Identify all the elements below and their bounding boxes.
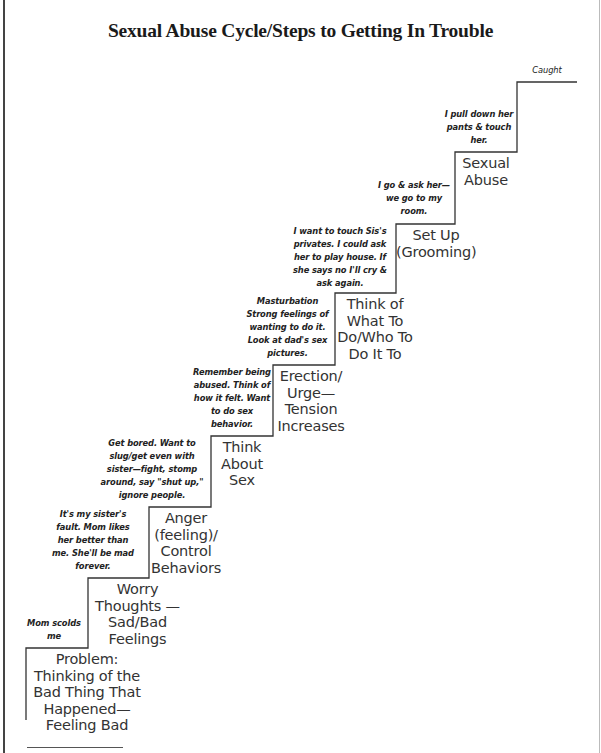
step-6-note: I want to touch Sis'sprivates. I could a…	[284, 225, 396, 290]
step-5-label: Erection/Urge—TensionIncreases	[272, 368, 350, 434]
step-3-label: Anger(feeling)/ControlBehaviors	[146, 510, 226, 576]
step-5-note: MasturbationStrong feelings ofwanting to…	[240, 295, 335, 360]
step-6-label: Think ofWhat ToDo/Who ToDo It To	[334, 296, 416, 362]
step-4-label: ThinkAboutSex	[211, 439, 273, 489]
step-2-note: It's my sister'sfault. Mom likesher bett…	[38, 508, 148, 573]
step-7-label: Set Up(Grooming)	[396, 227, 476, 260]
step-8-label: SexualAbuse	[455, 155, 517, 188]
step-4-note: Remember beingabused. Think ofhow it fel…	[188, 366, 276, 431]
step-7-note: I go & ask her—we go to myroom.	[373, 179, 455, 218]
step-1-note: Mom scoldsme	[22, 617, 86, 643]
step-9-note-caught: Caught	[517, 64, 577, 77]
step-8-note: I pull down herpants & touchher.	[440, 108, 518, 147]
step-2-label: WorryThoughts —Sad/BadFeelings	[90, 581, 185, 647]
footnote-rule	[27, 747, 123, 748]
step-1-label: Problem:Thinking of theBad Thing ThatHap…	[22, 651, 152, 734]
step-3-note: Get bored. Want toslug/get even withsist…	[94, 437, 210, 502]
